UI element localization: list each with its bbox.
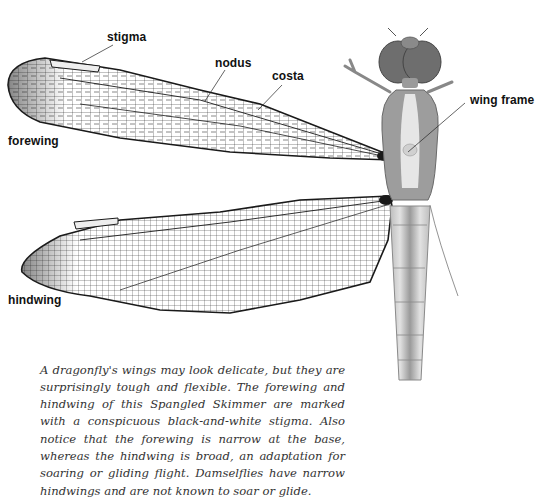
label-nodus: nodus [215,56,252,70]
label-stigma: stigma [107,30,146,44]
label-forewing: forewing [8,134,59,148]
label-hindwing: hindwing [8,293,61,307]
figure-caption: A dragonfly's wings may look delicate, b… [40,362,345,500]
label-wing-frame: wing frame [470,93,534,107]
label-costa: costa [272,69,304,83]
forewing-shape [8,58,393,161]
hindwing-shape [22,195,393,313]
